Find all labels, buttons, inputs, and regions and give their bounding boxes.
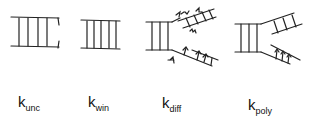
ladder-unc bbox=[11, 17, 59, 48]
label-sub: win bbox=[96, 103, 110, 113]
label-k-poly: kpoly bbox=[248, 97, 272, 116]
label-main: k bbox=[248, 96, 256, 113]
label-sub: poly bbox=[256, 106, 273, 116]
label-sub: unc bbox=[26, 103, 41, 113]
label-sub: diff bbox=[170, 104, 182, 114]
ladder-diff bbox=[146, 8, 218, 66]
label-k-unc: kunc bbox=[18, 94, 40, 113]
ladder-poly bbox=[235, 13, 302, 64]
label-k-win: kwin bbox=[88, 94, 109, 113]
label-main: k bbox=[162, 94, 170, 111]
label-main: k bbox=[18, 93, 26, 110]
ladder-win bbox=[81, 20, 120, 49]
label-k-diff: kdiff bbox=[162, 95, 181, 114]
label-main: k bbox=[88, 93, 96, 110]
